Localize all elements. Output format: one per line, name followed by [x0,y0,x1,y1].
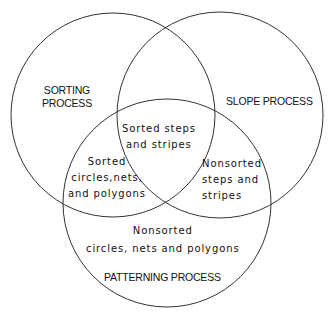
slope-patterning-region-label: Nonsorted steps and stripes [202,156,262,204]
patterning-process-label: PATTERNING PROCESS [104,271,221,284]
slope-process-label: SLOPE PROCESS [226,95,313,108]
center-region-label: Sorted steps and stripes [122,121,196,153]
patterning-only-region-label: Nonsorted circles, nets and polygons [86,222,240,257]
sorting-process-label: SORTING PROCESS [42,84,92,110]
venn-diagram [0,0,328,312]
sorting-patterning-region-label: Sorted circles,nets, and polygons [68,154,146,202]
